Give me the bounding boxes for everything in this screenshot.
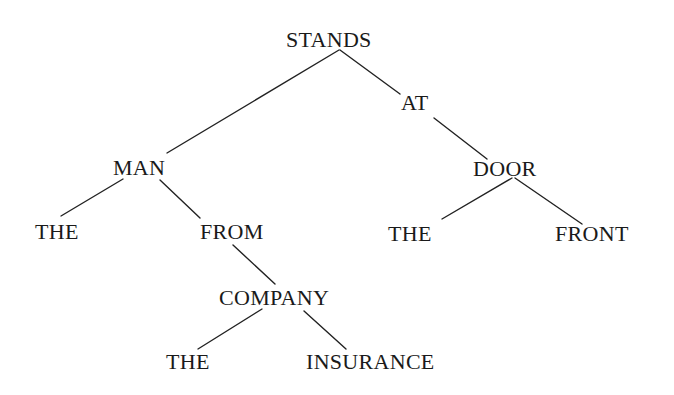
edge-company-the <box>198 309 262 349</box>
edge-stands-man <box>167 50 339 153</box>
edge-man-from <box>160 180 200 218</box>
node-at: AT <box>401 92 429 114</box>
edge-man-the <box>61 179 123 216</box>
edge-stands-at <box>340 50 400 94</box>
node-the-door: THE <box>388 223 432 245</box>
edge-at-door <box>434 118 487 159</box>
node-front: FRONT <box>555 223 629 245</box>
node-from: FROM <box>200 221 264 243</box>
node-company: COMPANY <box>219 287 329 309</box>
node-man: MAN <box>113 157 165 179</box>
node-the-man: THE <box>35 221 79 243</box>
node-stands: STANDS <box>286 29 372 51</box>
edge-company-insurance <box>304 311 346 349</box>
node-the-company: THE <box>166 351 210 373</box>
edge-door-the <box>442 178 512 219</box>
edge-from-company <box>233 245 275 284</box>
dependency-tree-diagram: STANDS AT MAN DOOR THE FROM THE FRONT CO… <box>0 0 674 395</box>
node-insurance: INSURANCE <box>306 351 435 373</box>
node-door: DOOR <box>473 158 537 180</box>
tree-edges <box>0 0 674 395</box>
edge-door-front <box>515 178 582 224</box>
